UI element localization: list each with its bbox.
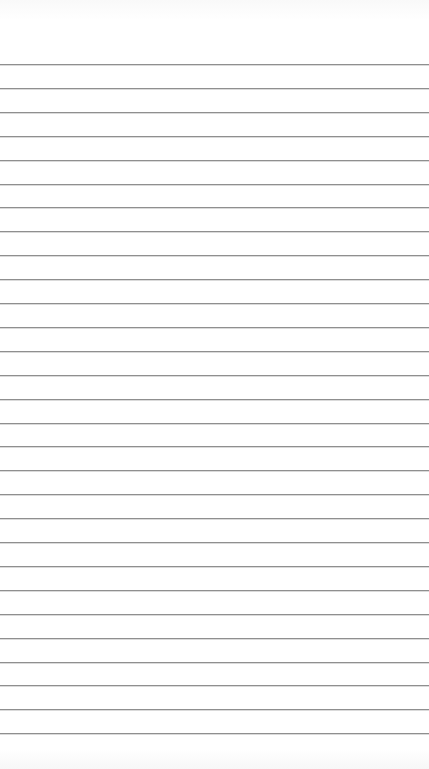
ruled-line <box>0 709 429 710</box>
ruled-line <box>0 470 429 471</box>
ruled-line <box>0 255 429 256</box>
ruled-line <box>0 64 429 65</box>
ruled-line <box>0 733 429 734</box>
ruled-line <box>0 542 429 543</box>
ruled-line <box>0 590 429 591</box>
ruled-line <box>0 375 429 376</box>
ruled-line <box>0 566 429 567</box>
ruled-line <box>0 136 429 137</box>
ruled-line <box>0 685 429 686</box>
ruled-line <box>0 112 429 113</box>
ruled-line <box>0 614 429 615</box>
ruled-line <box>0 351 429 352</box>
ruled-line <box>0 423 429 424</box>
ruled-line <box>0 303 429 304</box>
ruled-line <box>0 662 429 663</box>
ruled-line <box>0 518 429 519</box>
ruled-line <box>0 399 429 400</box>
ruled-line <box>0 160 429 161</box>
ruled-line <box>0 638 429 639</box>
ruled-line <box>0 184 429 185</box>
ruled-line <box>0 207 429 208</box>
ruled-line <box>0 279 429 280</box>
ruled-line <box>0 231 429 232</box>
ruled-line <box>0 446 429 447</box>
lined-paper-page <box>0 0 429 769</box>
ruled-line <box>0 494 429 495</box>
ruled-line <box>0 88 429 89</box>
ruled-line <box>0 327 429 328</box>
